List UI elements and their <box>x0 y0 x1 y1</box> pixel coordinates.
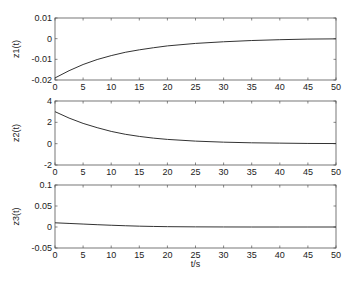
x-tick-label: 25 <box>190 82 200 92</box>
x-tick-label: 35 <box>247 167 257 177</box>
x-tick-label: 45 <box>303 167 313 177</box>
x-tick-label: 30 <box>219 82 229 92</box>
axes-box <box>55 101 336 165</box>
y-tick-label: 2 <box>47 117 52 127</box>
x-tick-label: 30 <box>219 250 229 260</box>
y-tick-label: 0.1 <box>39 180 52 190</box>
x-tick-label: 15 <box>134 82 144 92</box>
x-tick-label: 20 <box>162 250 172 260</box>
x-tick-label: 25 <box>190 167 200 177</box>
figure: 05101520253035404550-0.02-0.0100.01z1(t)… <box>0 0 362 285</box>
x-tick-label: 0 <box>52 167 57 177</box>
y-axis-label: z2(t) <box>11 124 21 142</box>
subplot-1: 05101520253035404550-0.02-0.0100.01z1(t) <box>11 13 341 92</box>
y-axis-label: z3(t) <box>11 207 21 225</box>
subplot-2: 05101520253035404550-2024z2(t) <box>11 96 341 177</box>
y-tick-label: 0 <box>47 139 52 149</box>
x-tick-label: 5 <box>81 250 86 260</box>
y-tick-label: -0.05 <box>31 243 52 253</box>
x-tick-label: 45 <box>303 250 313 260</box>
y-tick-label: 0 <box>47 222 52 232</box>
y-tick-label: 4 <box>47 96 52 106</box>
x-tick-label: 35 <box>247 250 257 260</box>
x-tick-label: 15 <box>134 167 144 177</box>
x-tick-label: 20 <box>162 167 172 177</box>
x-tick-label: 15 <box>134 250 144 260</box>
axes-box <box>55 18 336 80</box>
subplot-3: 05101520253035404550-0.0500.050.1z3(t) <box>11 180 341 260</box>
y-tick-label: 0.01 <box>34 13 52 23</box>
x-tick-label: 0 <box>52 82 57 92</box>
x-tick-label: 50 <box>331 167 341 177</box>
y-tick-label: 0 <box>47 34 52 44</box>
x-tick-label: 20 <box>162 82 172 92</box>
x-tick-label: 45 <box>303 82 313 92</box>
x-tick-label: 10 <box>106 167 116 177</box>
x-tick-label: 50 <box>331 250 341 260</box>
y-axis-label: z1(t) <box>11 40 21 58</box>
x-tick-label: 35 <box>247 82 257 92</box>
x-tick-label: 10 <box>106 250 116 260</box>
x-tick-label: 30 <box>219 167 229 177</box>
x-tick-label: 0 <box>52 250 57 260</box>
x-tick-label: 40 <box>275 167 285 177</box>
x-tick-label: 10 <box>106 82 116 92</box>
y-tick-label: -2 <box>44 160 52 170</box>
axes-box <box>55 185 336 248</box>
x-tick-label: 40 <box>275 250 285 260</box>
x-tick-label: 5 <box>81 82 86 92</box>
x-tick-label: 40 <box>275 82 285 92</box>
x-tick-label: 50 <box>331 82 341 92</box>
x-axis-label: t/s <box>191 259 201 269</box>
y-tick-label: 0.05 <box>34 201 52 211</box>
y-tick-label: -0.01 <box>31 54 52 64</box>
y-tick-label: -0.02 <box>31 75 52 85</box>
x-tick-label: 5 <box>81 167 86 177</box>
